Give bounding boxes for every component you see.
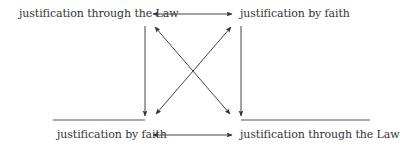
- diagonal-arrow-up-right: [156, 27, 231, 114]
- diagonal-arrow-down-right: [155, 27, 230, 114]
